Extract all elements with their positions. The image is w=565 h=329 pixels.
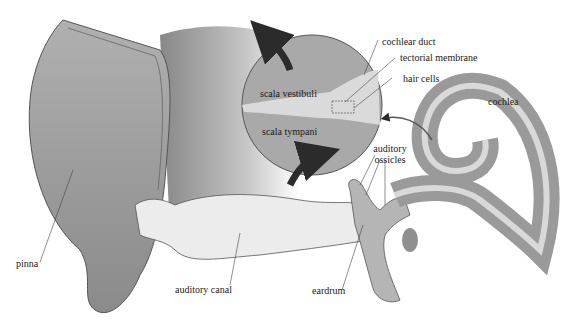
label-ossicles-line1: auditory [373,143,406,154]
label-ossicles-line2: ossicles [374,154,405,165]
label-scala-tympani: scala tympani [262,126,317,137]
ear-diagram [0,0,565,329]
label-tectorial-membrane: tectorial membrane [400,52,477,63]
label-hair-cells: hair cells [403,73,439,84]
label-pinna: pinna [16,258,38,269]
label-auditory-ossicles: auditory ossicles [365,143,415,165]
round-window [402,228,418,252]
label-scala-vestibuli: scala vestibuli [260,88,317,99]
label-cochlear-duct: cochlear duct [382,36,436,47]
auditory-canal-shape [135,195,368,260]
label-eardrum: eardrum [312,285,345,296]
pinna-shape [29,20,170,313]
label-auditory-canal: auditory canal [175,284,232,295]
label-cochlea: cochlea [488,96,519,107]
